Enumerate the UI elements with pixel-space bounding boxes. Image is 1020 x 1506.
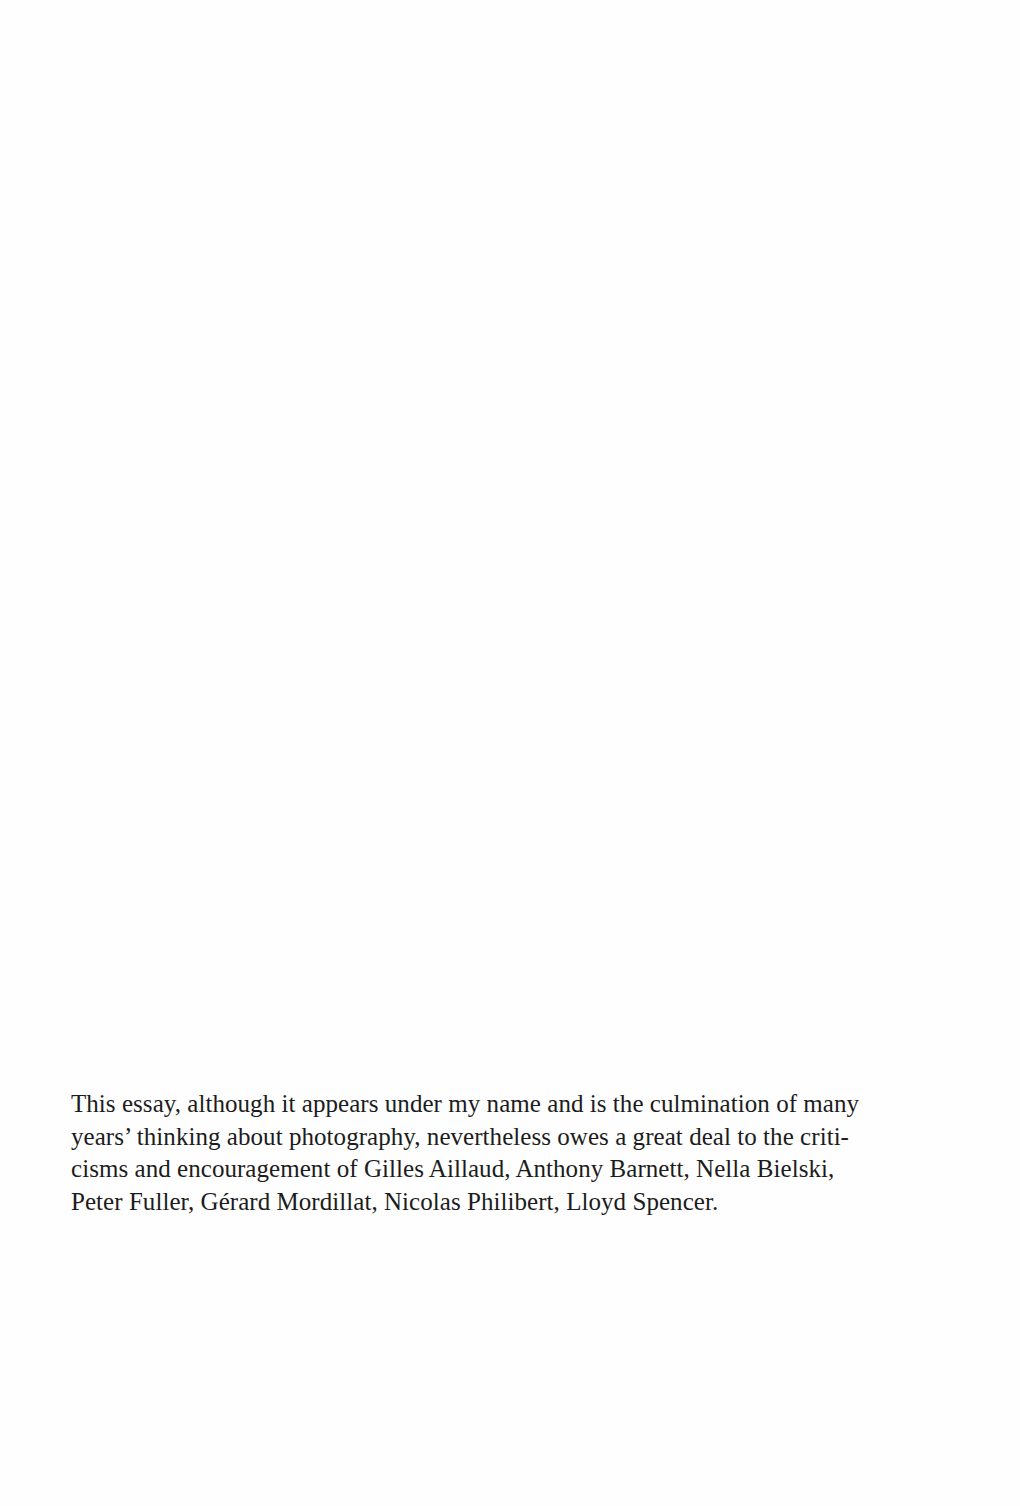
acknowledgement-paragraph: This essay, although it appears under my… bbox=[71, 1088, 951, 1218]
acknowledgement-line-1: This essay, although it appears under my… bbox=[71, 1088, 951, 1121]
acknowledgement-line-2: years’ thinking about photography, never… bbox=[71, 1121, 951, 1154]
acknowledgement-line-3: cisms and encouragement of Gilles Aillau… bbox=[71, 1153, 951, 1186]
book-page: This essay, although it appears under my… bbox=[0, 0, 1020, 1506]
acknowledgement-line-4: Peter Fuller, Gérard Mordillat, Nicolas … bbox=[71, 1186, 951, 1219]
